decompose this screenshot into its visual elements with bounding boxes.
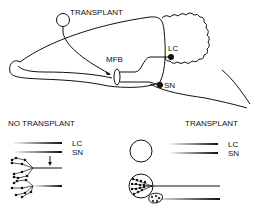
- mfb-label: MFB: [106, 55, 123, 64]
- nt-sprout-dots-upper: [11, 157, 29, 180]
- mfb-bundle: [114, 69, 120, 85]
- lesion-arrowhead: [48, 162, 52, 166]
- lc-nucleus-icon: [168, 54, 174, 60]
- nt-sn-fiber: [33, 185, 62, 187]
- graft-axon-path: [63, 27, 110, 74]
- lc-label: LC: [168, 44, 178, 53]
- transplant-graft-empty-icon: [130, 140, 152, 162]
- sn-label: SN: [164, 81, 175, 90]
- no-transplant-title: NO TRANSPLANT: [8, 119, 75, 128]
- nt-sprout-dots-lower: [11, 179, 33, 199]
- nt-sn-label: SN: [72, 148, 83, 157]
- t-graft-dots: [131, 178, 146, 195]
- sn-nucleus-icon: [157, 82, 163, 88]
- transplant-fibers: [168, 143, 218, 154]
- nt-sprouts-upper: [12, 158, 33, 178]
- nt-lc-label: LC: [72, 139, 82, 148]
- lc-projection: [120, 57, 170, 72]
- t-pocket-dots: [151, 195, 160, 202]
- no-transplant-fibers: [12, 142, 62, 153]
- brain-diagram: TRANSPLANT MFB LC SN NO TRANSPLANT LC SN: [0, 0, 255, 213]
- transplant-title: TRANSPLANT: [185, 119, 238, 128]
- t-lc-label: LC: [228, 140, 238, 149]
- t-secondary-pocket: [149, 193, 163, 203]
- brain-outline: [10, 17, 250, 108]
- transplant-graft-icon: [57, 14, 70, 27]
- t-sn-fiber-lower: [150, 198, 220, 200]
- transplant-label: TRANSPLANT: [70, 8, 123, 17]
- t-sn-label: SN: [228, 149, 239, 158]
